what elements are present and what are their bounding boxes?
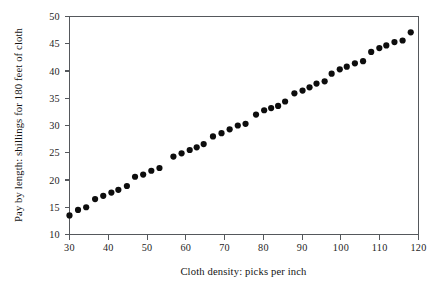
y-tick-label: 30 [49, 120, 60, 131]
data-point [227, 126, 233, 132]
x-tick-label: 80 [258, 242, 269, 253]
x-tick-label: 50 [142, 242, 153, 253]
data-point [92, 196, 98, 202]
x-tick-label: 40 [103, 242, 114, 253]
x-tick-label: 100 [333, 242, 349, 253]
data-point [187, 147, 193, 153]
data-point [156, 165, 162, 171]
data-point [100, 193, 106, 199]
data-point [261, 107, 267, 113]
data-point [108, 189, 114, 195]
data-point [329, 71, 335, 77]
scatter-plot-figure: 101520253035404550 304050607080901001101… [0, 0, 436, 291]
data-point [140, 171, 146, 177]
data-point [148, 168, 154, 174]
x-tick-label: 70 [219, 242, 230, 253]
data-point [408, 29, 414, 35]
data-point [368, 49, 374, 55]
data-point [268, 105, 274, 111]
data-point [306, 84, 312, 90]
data-point [201, 141, 207, 147]
data-point [75, 207, 81, 213]
x-axis-title: Cloth density: picks per inch [180, 266, 307, 277]
data-point [83, 204, 89, 210]
data-point [132, 174, 138, 180]
data-point [115, 187, 121, 193]
y-tick-label: 20 [49, 175, 60, 186]
data-point [360, 58, 366, 64]
data-point [124, 183, 130, 189]
data-point [235, 122, 241, 128]
x-tick-label: 90 [297, 242, 308, 253]
data-point [282, 98, 288, 104]
data-point [299, 88, 305, 94]
x-tick-label: 120 [410, 242, 426, 253]
x-tick-label: 30 [64, 242, 75, 253]
y-tick-label: 35 [49, 93, 60, 104]
data-point [391, 39, 397, 45]
data-point [178, 150, 184, 156]
data-point [275, 103, 281, 109]
x-tick-label: 60 [180, 242, 191, 253]
data-point [210, 133, 216, 139]
data-point [253, 112, 259, 118]
data-point [352, 60, 358, 66]
y-tick-label: 10 [49, 229, 60, 240]
x-tick-label: 110 [372, 242, 388, 253]
data-point [344, 64, 350, 70]
y-tick-label: 50 [49, 11, 60, 22]
data-point [383, 42, 389, 48]
plot-canvas: 101520253035404550 304050607080901001101… [0, 0, 436, 291]
data-point [337, 66, 343, 72]
data-point [400, 37, 406, 43]
y-tick-label: 15 [49, 202, 60, 213]
y-tick-label: 40 [49, 66, 60, 77]
data-point [66, 212, 72, 218]
data-point [291, 90, 297, 96]
data-point [242, 121, 248, 127]
data-point [313, 80, 319, 86]
data-point [170, 153, 176, 159]
data-point [376, 45, 382, 51]
data-point [322, 78, 328, 84]
y-tick-label: 25 [49, 147, 60, 158]
data-point [194, 144, 200, 150]
y-axis-tick-labels: 101520253035404550 [49, 11, 60, 240]
y-tick-label: 45 [49, 38, 60, 49]
data-point [218, 130, 224, 136]
y-axis-title: Pay by length: shillings for 180 feet of… [13, 27, 24, 222]
